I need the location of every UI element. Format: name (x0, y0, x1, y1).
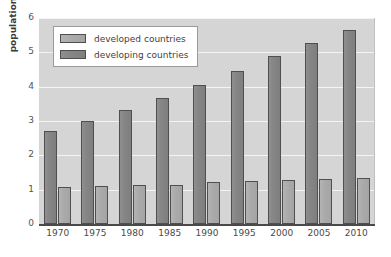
y-tick-label: 3 (22, 116, 34, 125)
x-tick-label: 2010 (338, 228, 375, 238)
legend-label: developed countries (94, 34, 186, 44)
y-axis-title: population (billions) (8, 0, 18, 66)
legend-entry: developed countries (60, 32, 188, 45)
x-axis-line (39, 224, 375, 226)
x-tick-label: 1970 (39, 228, 76, 238)
y-tick-label: 0 (22, 219, 34, 228)
chart-legend: developed countriesdeveloping countries (53, 26, 198, 67)
bar-developed-countries-1985 (170, 185, 183, 224)
x-tick-label: 1975 (76, 228, 113, 238)
bar-developing-countries-2010 (343, 30, 356, 224)
bar-developed-countries-2000 (282, 180, 295, 224)
bar-developed-countries-1990 (207, 182, 220, 224)
bar-developed-countries-1980 (133, 185, 146, 224)
legend-swatch-developed (60, 34, 86, 43)
legend-label: developing countries (94, 50, 188, 60)
x-tick-label: 1990 (188, 228, 225, 238)
x-tick-label: 1980 (114, 228, 151, 238)
bar-developed-countries-1970 (58, 187, 71, 224)
bar-developed-countries-2005 (319, 179, 332, 224)
bar-group (226, 18, 263, 224)
legend-swatch-developing (60, 50, 86, 59)
bar-group (300, 18, 337, 224)
bar-developing-countries-1970 (44, 131, 57, 224)
x-tick-label: 2005 (300, 228, 337, 238)
plot-right-border (374, 18, 375, 225)
y-tick-label: 5 (22, 47, 34, 56)
bar-developing-countries-1985 (156, 98, 169, 224)
x-tick-label: 2000 (263, 228, 300, 238)
bar-developing-countries-1975 (81, 121, 94, 224)
bar-developing-countries-2000 (268, 56, 281, 224)
y-tick-label: 1 (22, 185, 34, 194)
bar-developing-countries-1980 (119, 110, 132, 224)
bar-developing-countries-1995 (231, 71, 244, 224)
bar-developing-countries-2005 (305, 43, 318, 224)
y-tick-label: 6 (22, 13, 34, 22)
bar-developing-countries-1990 (193, 85, 206, 224)
y-tick-label: 2 (22, 150, 34, 159)
population-bar-chart: population (billions) 0123456 1970197519… (0, 0, 391, 257)
x-tick-label: 1985 (151, 228, 188, 238)
bar-group (263, 18, 300, 224)
bar-developed-countries-1995 (245, 181, 258, 224)
legend-entry: developing countries (60, 48, 188, 61)
y-tick-label: 4 (22, 82, 34, 91)
bar-developed-countries-2010 (357, 178, 370, 224)
x-tick-label: 1995 (226, 228, 263, 238)
bar-group (338, 18, 375, 224)
bar-developed-countries-1975 (95, 186, 108, 224)
